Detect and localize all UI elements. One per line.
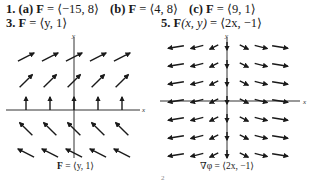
- vector-arrow: [42, 53, 58, 61]
- vector-arrow: [255, 81, 268, 84]
- vector-arrow: [272, 118, 288, 121]
- vector-arrow: [168, 82, 184, 85]
- field-arrows: [168, 42, 288, 158]
- vector-field-plot-3: x y: [6, 32, 146, 158]
- vector-arrow: [210, 63, 218, 67]
- vector-arrow: [240, 45, 248, 49]
- vector-arrow: [191, 81, 204, 84]
- x-axis-label: x: [302, 98, 307, 106]
- vector-arrow: [42, 149, 58, 157]
- vector-arrow: [191, 153, 204, 156]
- vector-arrow: [240, 81, 248, 85]
- vector-arrow: [168, 154, 184, 157]
- vector-arrow: [272, 154, 288, 157]
- vector-arrow: [92, 123, 105, 136]
- vector-arrow: [255, 63, 268, 66]
- vector-arrow: [114, 149, 130, 157]
- vector-arrow: [240, 63, 248, 67]
- vector-arrow: [18, 53, 34, 61]
- vector-arrow: [191, 45, 204, 48]
- vector-arrow: [168, 118, 184, 121]
- vector-arrow: [116, 75, 129, 88]
- vector-arrow: [255, 45, 268, 48]
- vector-arrow: [191, 117, 204, 120]
- vector-arrow: [255, 153, 268, 156]
- figure-caption-3: F = ⟨y, 1⟩: [57, 160, 94, 171]
- vector-arrow: [240, 153, 248, 157]
- vector-arrow: [20, 75, 33, 88]
- vector-arrow: [20, 123, 33, 136]
- vector-arrow: [240, 135, 248, 139]
- page-fragment: 2: [161, 174, 165, 182]
- vector-field-figures: x y x y: [0, 0, 314, 184]
- vector-arrow: [210, 81, 218, 85]
- vector-arrow: [191, 135, 204, 138]
- vector-arrow: [90, 149, 106, 157]
- y-axis-label: y: [71, 32, 76, 40]
- vector-arrow: [92, 75, 105, 88]
- vector-arrow: [18, 149, 34, 157]
- vector-arrow: [255, 135, 268, 138]
- vector-field-plot-5: x y: [160, 32, 307, 158]
- vector-arrow: [272, 136, 288, 139]
- vector-arrow: [272, 82, 288, 85]
- vector-arrow: [168, 64, 184, 67]
- vector-arrow: [44, 75, 57, 88]
- vector-arrow: [44, 123, 57, 136]
- vector-arrow: [272, 46, 288, 49]
- vector-arrow: [114, 53, 130, 61]
- vector-arrow: [90, 53, 106, 61]
- vector-arrow: [210, 153, 218, 157]
- vector-arrow: [255, 117, 268, 120]
- vector-arrow: [210, 45, 218, 49]
- vector-arrow: [240, 117, 248, 121]
- vector-arrow: [191, 63, 204, 66]
- y-axis-label: y: [224, 32, 229, 40]
- x-axis-label: x: [141, 106, 146, 114]
- vector-arrow: [210, 117, 218, 121]
- figure-caption-5: ∇φ = ⟨2x, −1⟩: [200, 160, 254, 171]
- vector-arrow: [272, 64, 288, 67]
- vector-arrow: [210, 135, 218, 139]
- vector-arrow: [168, 46, 184, 49]
- vector-arrow: [168, 136, 184, 139]
- vector-arrow: [116, 123, 129, 136]
